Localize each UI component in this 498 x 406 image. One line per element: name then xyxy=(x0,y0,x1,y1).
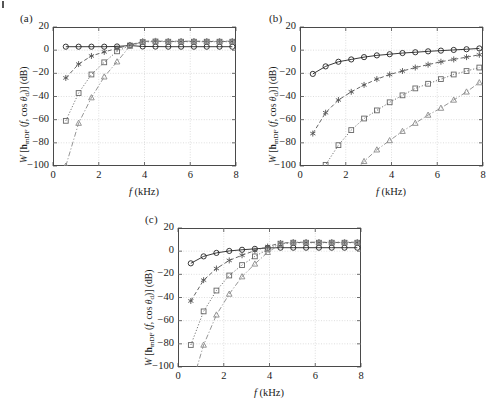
series-layer xyxy=(188,239,360,390)
xtick-label: 6 xyxy=(425,169,449,180)
xtick-label: 0 xyxy=(41,169,65,180)
xtick-label: 6 xyxy=(303,370,327,381)
data-marker-triangle xyxy=(336,188,342,193)
panel-b: (b) W [hmDF (f, cos θd)] (dB) f (kHz) 20… xyxy=(249,0,498,203)
ytick-label: −80 xyxy=(268,136,296,147)
series-markers-square xyxy=(188,240,359,347)
data-marker-asterisk xyxy=(361,82,366,88)
ytick-label: −80 xyxy=(21,136,49,147)
panel-c-plot xyxy=(178,228,361,367)
series-line-asterisk xyxy=(313,55,480,134)
data-marker-asterisk xyxy=(349,89,354,95)
data-marker-triangle xyxy=(438,105,444,110)
data-marker-square xyxy=(227,273,232,278)
data-marker-asterisk xyxy=(102,49,107,55)
data-marker-asterisk xyxy=(227,257,232,263)
ytick-label: 0 xyxy=(146,244,174,255)
series-line-square xyxy=(191,243,358,345)
ytick-label: −80 xyxy=(146,337,174,348)
xtick-label: 4 xyxy=(258,370,282,381)
xtick-label: 4 xyxy=(133,169,157,180)
series-markers-square xyxy=(310,65,481,203)
panel-a-axes xyxy=(53,27,236,166)
data-marker-square xyxy=(400,93,405,98)
data-marker-triangle xyxy=(114,59,120,64)
data-marker-square xyxy=(323,162,328,167)
xtick-label: 6 xyxy=(178,169,202,180)
figure-root: (a) W [hmDF (f, cos θd)] (dB) f (kHz) 20… xyxy=(0,0,498,406)
data-marker-square xyxy=(413,86,418,91)
ytick-label: −60 xyxy=(146,314,174,325)
ytick-label: −20 xyxy=(21,66,49,77)
data-marker-triangle xyxy=(477,80,483,85)
data-marker-square xyxy=(439,77,444,82)
data-marker-triangle xyxy=(214,312,220,317)
xtick-label: 0 xyxy=(288,169,312,180)
data-marker-square xyxy=(63,118,68,123)
ytick-label: −40 xyxy=(21,90,49,101)
series-markers-square xyxy=(63,39,234,123)
ytick-label: −60 xyxy=(268,113,296,124)
panel-a-plot xyxy=(53,27,236,166)
ytick-label: −60 xyxy=(21,113,49,124)
series-line-triangle xyxy=(66,41,233,166)
series-line-triangle xyxy=(191,242,358,388)
ytick-label: −20 xyxy=(146,267,174,278)
xtick-label: 2 xyxy=(87,169,111,180)
panel-b-xlabel: f (kHz) xyxy=(351,186,431,197)
panel-c: (c) W [hmDF (f, cos θd)] (dB) f (kHz) 20… xyxy=(125,203,374,406)
ytick-label: −20 xyxy=(268,66,296,77)
series-line-square xyxy=(66,41,233,120)
data-marker-triangle xyxy=(188,385,194,390)
panel-c-axes xyxy=(178,228,361,367)
panel-a-xlabel: f (kHz) xyxy=(104,186,184,197)
data-marker-square xyxy=(201,309,206,314)
data-marker-asterisk xyxy=(239,252,244,258)
ytick-label: 0 xyxy=(21,43,49,54)
xtick-label: 8 xyxy=(224,169,248,180)
ytick-label: −40 xyxy=(146,291,174,302)
panel-b-plot xyxy=(300,27,483,166)
ytick-label: −40 xyxy=(268,90,296,101)
ytick-label: 20 xyxy=(268,20,296,31)
data-marker-square xyxy=(374,108,379,113)
series-line-square xyxy=(313,68,480,201)
data-marker-triangle xyxy=(101,74,107,79)
panel-a: (a) W [hmDF (f, cos θd)] (dB) f (kHz) 20… xyxy=(0,0,249,203)
series-markers-asterisk xyxy=(310,52,482,137)
xtick-label: 4 xyxy=(380,169,404,180)
xtick-label: 8 xyxy=(471,169,495,180)
series-line-circle xyxy=(66,46,233,47)
ytick-label: 0 xyxy=(268,43,296,54)
panel-c-xlabel: f (kHz) xyxy=(229,387,309,398)
data-marker-square xyxy=(188,343,193,348)
ytick-label: 20 xyxy=(146,221,174,232)
data-marker-triangle xyxy=(464,89,470,94)
xtick-label: 0 xyxy=(166,370,190,381)
xtick-label: 2 xyxy=(334,169,358,180)
data-marker-circle xyxy=(310,71,315,76)
data-marker-asterisk xyxy=(374,76,379,82)
xtick-label: 8 xyxy=(349,370,373,381)
panel-b-axes xyxy=(300,27,483,166)
xtick-label: 2 xyxy=(212,370,236,381)
data-marker-square xyxy=(89,72,94,77)
series-markers-triangle xyxy=(188,239,360,390)
data-marker-asterisk xyxy=(477,52,482,58)
series-layer xyxy=(63,38,235,168)
data-marker-asterisk xyxy=(89,53,94,59)
ytick-label: 20 xyxy=(21,20,49,31)
